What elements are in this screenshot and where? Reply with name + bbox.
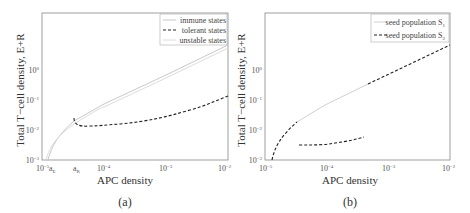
- svg-text:10−4: 10−4: [97, 164, 111, 173]
- x-axis-b: 10−5 10−4 10−3 10−2: [259, 164, 456, 173]
- panel-a: immune states tolerant states unstable s…: [0, 0, 235, 213]
- svg-text:10−3: 10−3: [159, 164, 173, 173]
- legend-unstable-states: unstable states: [180, 36, 226, 45]
- panel-b: seed population S1 seed population S2 10…: [235, 0, 470, 213]
- svg-text:10−2: 10−2: [249, 126, 263, 135]
- legend-immune-states: immune states: [180, 16, 226, 25]
- tolerant-states-curve: [74, 96, 228, 126]
- svg-text:10−1: 10−1: [26, 96, 40, 105]
- svg-text:10−3: 10−3: [382, 164, 396, 173]
- legend-seed-s2: seed population S2: [386, 31, 446, 41]
- x-axis-label-b: APC density: [322, 174, 378, 186]
- x-axis-label-a: APC density: [97, 174, 153, 186]
- legend-a: immune states tolerant states unstable s…: [160, 14, 227, 45]
- caption-b: (b): [343, 195, 357, 209]
- svg-text:10−2: 10−2: [442, 164, 456, 173]
- y-axis-a: 10−3 10−2 10−1 100: [26, 66, 40, 165]
- svg-text:10−2: 10−2: [218, 164, 232, 173]
- seed-s2-curve-tolerant: [299, 137, 364, 145]
- chart-a: immune states tolerant states unstable s…: [0, 0, 235, 213]
- unstable-states-curve: [46, 48, 228, 160]
- caption-a: (a): [118, 195, 131, 209]
- svg-text:10−1: 10−1: [249, 96, 263, 105]
- immune-states-curve: [48, 45, 228, 160]
- svg-text:10−5: 10−5: [259, 164, 273, 173]
- chart-b: seed population S1 seed population S2 10…: [235, 0, 470, 213]
- y-axis-b: 10−3 10−2 10−1 100: [249, 66, 263, 165]
- svg-text:aE: aE: [49, 164, 56, 174]
- svg-text:10−2: 10−2: [26, 126, 40, 135]
- y-axis-label-a: Total T−cell density, E+R: [14, 33, 26, 147]
- svg-text:aR: aR: [73, 164, 81, 174]
- legend-b: seed population S1 seed population S2: [371, 14, 449, 42]
- seed-s2-curve-high: [368, 45, 450, 84]
- svg-text:10−5: 10−5: [36, 164, 50, 173]
- svg-text:100: 100: [252, 66, 263, 75]
- x-axis-a: 10−5 aE aR 10−4 10−3 10−2: [36, 164, 232, 174]
- legend-seed-s1: seed population S1: [386, 18, 446, 28]
- svg-text:10−4: 10−4: [320, 164, 334, 173]
- legend-tolerant-states: tolerant states: [182, 26, 226, 35]
- svg-text:100: 100: [29, 66, 40, 75]
- seed-s1-curve: [297, 84, 368, 122]
- seed-s2-curve-low: [272, 122, 297, 160]
- y-axis-label-b: Total T−cell density, E+R: [235, 33, 247, 147]
